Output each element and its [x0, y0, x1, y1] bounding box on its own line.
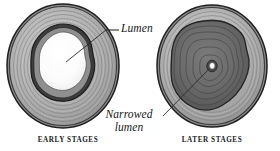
- caption-early-stages: EARLY STAGES: [0, 136, 136, 144]
- narrowed-lumen-line-1: Narrowed: [105, 108, 152, 120]
- narrowed-lumen-line-2: lumen: [115, 121, 144, 133]
- caption-later-stages: LATER STAGES: [144, 136, 280, 144]
- callout-label-narrowed-lumen: Narrowed lumen: [96, 108, 162, 133]
- early-stage-lumen: [39, 32, 86, 90]
- callout-label-lumen: Lumen: [121, 23, 153, 35]
- later-stage-vessel: [157, 5, 267, 127]
- later-stage-lumen: [210, 63, 215, 69]
- artery-cross-section-figure: Lumen Narrowed lumen EARLY STAGES LATER …: [0, 0, 280, 151]
